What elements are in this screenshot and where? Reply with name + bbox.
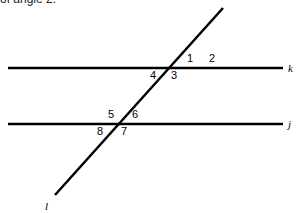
angle-8: 8 xyxy=(97,125,103,137)
label-j: j xyxy=(286,118,291,130)
parallel-lines-diagram: k j l 1 2 3 4 5 6 7 8 xyxy=(0,0,299,213)
angle-1: 1 xyxy=(187,52,193,64)
label-l: l xyxy=(45,200,48,212)
transversal-l xyxy=(55,8,223,195)
angle-4: 4 xyxy=(150,69,156,81)
label-k: k xyxy=(288,62,294,74)
angle-2: 2 xyxy=(209,52,215,64)
angle-3: 3 xyxy=(171,69,177,81)
angle-5: 5 xyxy=(108,108,114,120)
angle-7: 7 xyxy=(121,125,127,137)
angle-6: 6 xyxy=(132,108,138,120)
